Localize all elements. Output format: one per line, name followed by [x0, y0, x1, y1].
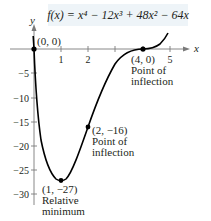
y-tick-label-neg30: −30 [13, 189, 29, 200]
label-point-0-0: (0, 0) [37, 35, 61, 48]
y-tick-label-neg15: −15 [13, 117, 29, 128]
x-axis-arrow-icon [183, 47, 190, 52]
x-tick-label-2: 2 [86, 54, 91, 65]
note-point-1-neg27-line2: minimum [42, 205, 85, 217]
y-tick-label-neg10: −10 [13, 93, 29, 104]
x-tick-label-1: 1 [59, 54, 64, 65]
point-0-0 [31, 46, 36, 51]
x-axis-label: x [193, 42, 199, 54]
x-tick-label-5: 5 [168, 54, 173, 65]
function-plot: x y 1 2 5 −5 −10 −15 −20 −25 −30 (0, 0) … [0, 0, 211, 221]
y-tick-label-neg25: −25 [13, 165, 29, 176]
y-tick-label-neg20: −20 [13, 141, 29, 152]
y-axis-label: y [29, 14, 35, 26]
y-tick-label-neg5: −5 [18, 68, 29, 79]
note-point-4-0-line2: inflection [131, 75, 174, 87]
point-4-0 [140, 46, 145, 51]
point-2-neg16 [86, 125, 91, 130]
note-point-2-neg16-line2: inflection [92, 146, 135, 158]
